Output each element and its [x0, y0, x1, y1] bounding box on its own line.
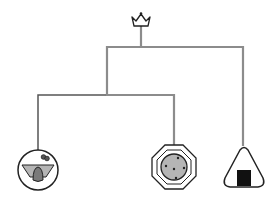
onigiri-icon	[224, 148, 264, 188]
tree-edges	[38, 27, 243, 150]
crown-icon	[132, 12, 150, 27]
tree-diagram	[0, 0, 280, 206]
bowl-face-icon	[18, 150, 58, 190]
edge-internal-to-leaf-1	[38, 95, 107, 150]
edge-root-to-internal	[107, 27, 141, 95]
edge-internal-to-leaf-2	[107, 95, 174, 144]
octagon-cookie-icon	[152, 145, 196, 189]
